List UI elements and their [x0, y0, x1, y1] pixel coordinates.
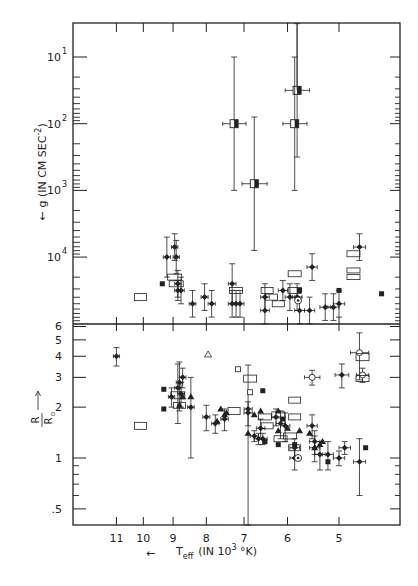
x-tick-label: 10 — [136, 532, 150, 545]
svg-text:2: 2 — [62, 114, 67, 123]
plot-frame — [73, 23, 400, 525]
svg-text:⊙: ⊙ — [49, 411, 56, 416]
svg-text:3: 3 — [62, 180, 67, 189]
x-tick-label: 8 — [203, 532, 210, 545]
y-tick-label: 4 — [55, 350, 62, 363]
axes: 111098765101102103104.5123456 — [47, 23, 400, 545]
y-tick-label: 10 — [47, 51, 61, 64]
svg-text:R: R — [30, 416, 41, 423]
svg-text:Teff(IN 103 °K): Teff(IN 103 °K) — [175, 543, 257, 561]
bottom-y-axis-label: R R ⊙ — [30, 391, 56, 427]
y-tick-label: 6 — [55, 320, 62, 333]
svg-text:←: ← — [146, 547, 155, 560]
y-tick-label: 10 — [47, 118, 61, 131]
svg-text:R: R — [43, 417, 54, 424]
top-y-axis-label: ←g (IN CM SEC-2) — [34, 123, 49, 221]
data-points — [113, 23, 384, 525]
g-r-teff-chart: 111098765101102103104.5123456 ←g (IN CM … — [0, 0, 418, 586]
y-tick-label: .5 — [52, 503, 63, 516]
y-tick-label: 10 — [47, 251, 61, 264]
x-tick-label: 11 — [109, 532, 123, 545]
svg-text:←g (IN CM SEC-2): ←g (IN CM SEC-2) — [34, 123, 49, 221]
y-tick-label: 5 — [55, 334, 62, 347]
svg-text:4: 4 — [62, 247, 67, 256]
svg-text:1: 1 — [62, 47, 67, 56]
x-tick-label: 5 — [336, 532, 343, 545]
x-axis-label: ← Teff(IN 103 °K) — [146, 543, 257, 561]
y-tick-label: 3 — [55, 371, 62, 384]
y-tick-label: 10 — [47, 184, 61, 197]
x-tick-label: 7 — [241, 532, 248, 545]
y-tick-label: 1 — [55, 452, 62, 465]
x-tick-label: 9 — [170, 532, 177, 545]
x-tick-label: 6 — [284, 532, 291, 545]
y-tick-label: 2 — [55, 401, 62, 414]
